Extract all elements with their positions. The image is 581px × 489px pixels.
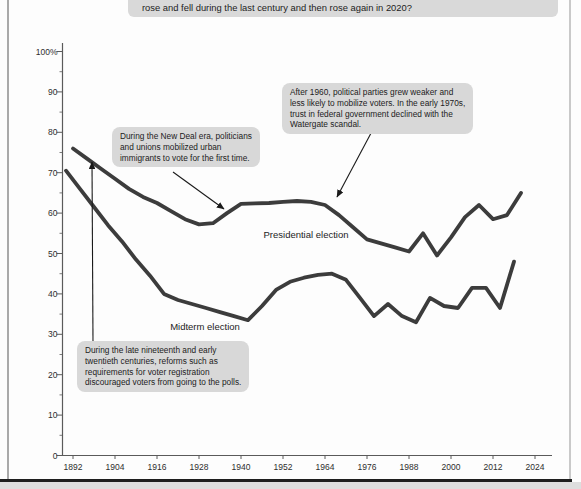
x-axis-tick-label: 2000: [442, 462, 461, 472]
annotation-line: and unions mobilized urban: [120, 142, 252, 153]
annotation-line: During the New Deal era, politicians: [120, 131, 252, 142]
x-axis-tick-label: 1928: [190, 462, 209, 472]
y-axis-tick-label: 10: [48, 410, 58, 420]
annotation-line: immigrants to vote for the first time.: [120, 153, 252, 164]
y-axis-tick-label: 50: [48, 249, 58, 259]
voter-turnout-chart: 100%908070605040302010018921904191619281…: [0, 0, 581, 489]
annotation-line: trust in federal government declined wit…: [290, 109, 465, 120]
y-axis-tick-label: 30: [48, 329, 58, 339]
y-axis-tick-label: 20: [48, 370, 58, 380]
x-axis-tick-label: 1976: [358, 462, 377, 472]
annotation-line: Watergate scandal.: [290, 119, 465, 130]
x-axis-tick-label: 1964: [316, 462, 335, 472]
annotation-line: requirements for voter registration: [85, 367, 241, 378]
annotation-registration-reforms: During the late nineteenth and early twe…: [77, 341, 249, 392]
x-axis-tick-label: 1892: [64, 462, 83, 472]
annotation-new-deal: During the New Deal era, politicians and…: [112, 127, 260, 167]
annotation-line: discouraged voters from going to the pol…: [85, 377, 241, 388]
x-axis-tick-label: 1916: [148, 462, 167, 472]
y-axis-tick-label: 90: [48, 87, 58, 97]
y-axis-tick-label: 70: [48, 168, 58, 178]
x-axis-tick-label: 1904: [106, 462, 125, 472]
y-axis-tick-label: 0: [53, 451, 58, 461]
annotation-line: twentieth centuries, reforms such as: [85, 356, 241, 367]
y-axis-tick-label: 40: [48, 289, 58, 299]
y-axis-tick-label: 100%: [36, 47, 58, 57]
x-axis-tick-label: 1940: [232, 462, 251, 472]
annotation-line: less likely to mobilize voters. In the e…: [290, 98, 465, 109]
annotation-line: After 1960, political parties grew weake…: [290, 87, 465, 98]
y-axis-tick-label: 60: [48, 208, 58, 218]
x-axis-tick-label: 2012: [484, 462, 503, 472]
annotation-watergate: After 1960, political parties grew weake…: [282, 83, 473, 134]
presidential-series-label: Presidential election: [263, 229, 348, 240]
midterm-series-label: Midterm election: [170, 321, 240, 332]
annotation-arrow: [173, 172, 224, 209]
annotation-line: During the late nineteenth and early: [85, 345, 241, 356]
x-axis-tick-label: 1952: [274, 462, 293, 472]
x-axis-tick-label: 1988: [400, 462, 419, 472]
textbook-figure-page: rose and fell during the last century an…: [0, 0, 581, 489]
y-axis-tick-label: 80: [48, 127, 58, 137]
x-axis-tick-label: 2024: [526, 462, 545, 472]
annotation-arrow: [92, 162, 93, 342]
